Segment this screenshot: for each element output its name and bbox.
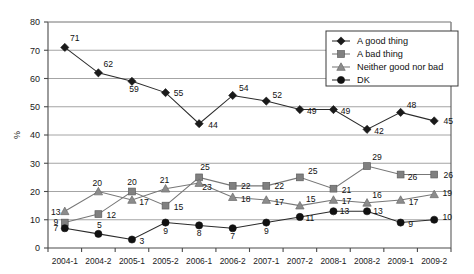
data-label: 71: [70, 33, 80, 43]
data-label: 15: [306, 194, 316, 204]
y-tick-label: 20: [30, 187, 40, 197]
data-label: 23: [202, 182, 212, 192]
marker-diamond: [363, 125, 371, 133]
data-label: 5: [97, 220, 102, 230]
data-label: 15: [174, 202, 184, 212]
marker-triangle: [329, 196, 337, 204]
x-tick-label: 2006-2: [220, 256, 246, 266]
marker-square: [129, 188, 136, 195]
data-label: 29: [372, 152, 382, 162]
marker-circle: [128, 236, 135, 243]
data-label: 17: [342, 196, 352, 206]
marker-circle: [363, 208, 370, 215]
data-label: 44: [208, 120, 218, 130]
data-label: 49: [307, 106, 317, 116]
marker-circle: [337, 76, 344, 83]
data-label: 25: [308, 166, 318, 176]
x-tick-label: 2004-1: [52, 256, 78, 266]
data-label: 17: [275, 197, 285, 207]
data-label: 20: [127, 177, 137, 187]
marker-square: [338, 51, 345, 58]
data-label: 11: [305, 213, 314, 223]
y-tick-label: 50: [30, 102, 40, 112]
x-tick-label: 2009-1: [388, 256, 414, 266]
legend-item-label: A bad thing: [357, 49, 403, 59]
data-label: 48: [407, 100, 417, 110]
marker-diamond: [94, 69, 102, 77]
marker-square: [263, 182, 270, 189]
data-label: 7: [230, 231, 235, 241]
data-label: 62: [104, 59, 114, 69]
data-label: 21: [160, 175, 170, 185]
data-label: 10: [442, 212, 452, 222]
data-label: 54: [239, 83, 249, 93]
marker-triangle: [229, 193, 237, 201]
data-label: 9: [163, 226, 168, 236]
data-label: 42: [374, 126, 384, 136]
legend-item-label: A good thing: [357, 36, 408, 46]
legend-item-label: DK: [357, 75, 371, 85]
y-tick-label: 0: [35, 243, 40, 253]
y-tick-label: 70: [30, 46, 40, 56]
marker-diamond: [262, 97, 270, 105]
data-label: 3: [140, 236, 145, 246]
marker-square: [229, 182, 236, 189]
marker-square: [397, 171, 404, 178]
data-label: 8: [197, 228, 202, 238]
marker-circle: [61, 225, 68, 232]
x-tick-label: 2005-1: [119, 256, 145, 266]
data-label: 52: [273, 90, 283, 100]
data-label: 13: [51, 207, 61, 217]
data-label: 12: [107, 210, 117, 220]
marker-diamond: [430, 117, 438, 125]
x-tick-label: 2007-2: [287, 256, 313, 266]
data-label: 9: [408, 219, 413, 229]
data-label: 26: [408, 172, 418, 182]
marker-square: [364, 163, 371, 170]
data-label: 19: [442, 188, 452, 198]
x-tick-label: 2006-1: [186, 256, 212, 266]
marker-circle: [95, 230, 102, 237]
data-label: 26: [443, 170, 453, 180]
marker-square: [162, 202, 169, 209]
marker-diamond: [397, 108, 405, 116]
data-label: 21: [342, 185, 352, 195]
y-tick-label: 80: [30, 17, 40, 27]
marker-circle: [296, 213, 303, 220]
marker-square: [330, 185, 337, 192]
marker-circle: [330, 208, 337, 215]
x-tick-label: 2008-1: [320, 256, 346, 266]
marker-square: [296, 174, 303, 181]
data-label: 9: [264, 226, 269, 236]
data-label: 7: [53, 223, 58, 233]
x-tick-label: 2008-2: [354, 256, 380, 266]
chart-canvas: 01020304050607080%2004-12004-22005-12005…: [0, 0, 474, 274]
data-label: 55: [174, 88, 184, 98]
data-label: 17: [409, 197, 419, 207]
data-label: 18: [241, 194, 251, 204]
data-label: 45: [443, 116, 453, 126]
x-tick-label: 2005-2: [153, 256, 179, 266]
y-tick-label: 10: [30, 215, 40, 225]
x-tick-label: 2009-2: [421, 256, 447, 266]
y-tick-label: 60: [30, 74, 40, 84]
y-tick-label: 40: [30, 130, 40, 140]
data-label: 25: [200, 162, 210, 172]
x-tick-label: 2004-2: [85, 256, 111, 266]
data-label: 59: [129, 84, 139, 94]
data-label: 16: [372, 190, 382, 200]
line-chart: 01020304050607080%2004-12004-22005-12005…: [0, 0, 474, 274]
y-tick-label: 30: [30, 159, 40, 169]
data-label: 20: [93, 178, 103, 188]
x-axis-labels: 2004-12004-22005-12005-22006-12006-22007…: [48, 248, 451, 266]
data-label: 22: [275, 181, 285, 191]
marker-square: [95, 211, 102, 218]
marker-triangle: [61, 207, 69, 215]
legend: A good thingA bad thingNeither good nor …: [326, 31, 458, 86]
data-label: 17: [139, 197, 149, 207]
data-label: 13: [373, 206, 383, 216]
data-label: 22: [241, 181, 251, 191]
data-label: 49: [341, 106, 351, 116]
marker-circle: [397, 219, 404, 226]
marker-square: [431, 171, 438, 178]
